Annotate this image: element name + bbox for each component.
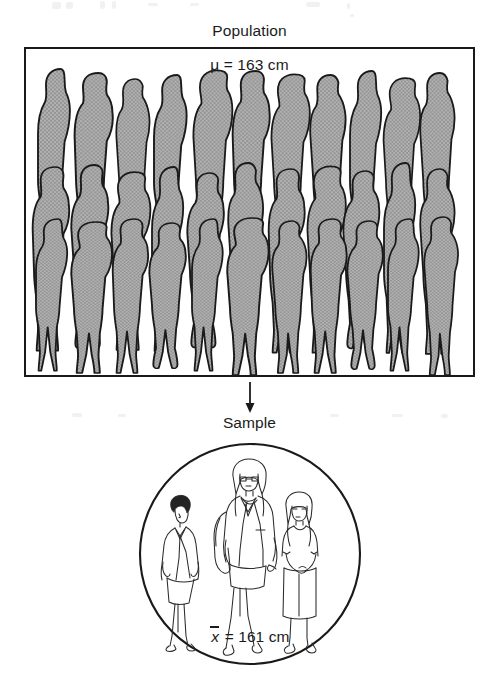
population-mean-label: μ = 163 cm <box>24 56 475 74</box>
population-box <box>24 47 475 377</box>
sample-title: Sample <box>0 414 499 432</box>
flow-arrow-icon <box>230 382 270 414</box>
sample-mean-label: x = 161 cm <box>140 628 360 646</box>
population-crowd <box>26 49 473 375</box>
population-title: Population <box>0 22 499 40</box>
scan-artifact <box>66 2 73 9</box>
scan-artifact <box>112 1 116 9</box>
scan-artifact <box>347 3 350 9</box>
scan-artifact <box>190 3 199 6</box>
sample-mean-value: = 161 cm <box>220 628 289 645</box>
figure-canvas: Population <box>0 0 499 678</box>
scan-artifact <box>148 3 158 6</box>
scan-artifact <box>306 2 320 7</box>
scan-artifact <box>100 1 105 9</box>
x-bar-symbol: x <box>210 628 220 646</box>
scan-artifact <box>350 14 354 17</box>
scan-artifact <box>52 2 61 9</box>
